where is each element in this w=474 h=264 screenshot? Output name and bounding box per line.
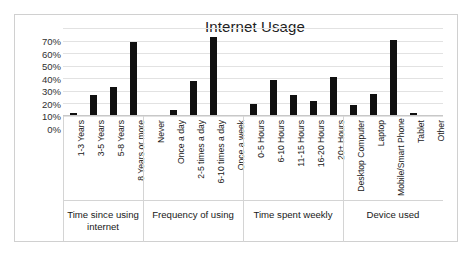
y-axis-tick-label: 20%: [23, 99, 61, 108]
x-axis-category-label: 0-5 Hours: [257, 120, 266, 196]
bars-layer: [63, 28, 443, 116]
x-axis-category-label: 5-8 Years: [117, 120, 126, 196]
y-axis-tick-label: 30%: [23, 87, 61, 96]
bar[interactable]: [410, 113, 417, 116]
bar[interactable]: [110, 87, 117, 115]
x-axis-category-label: Desktop Computer: [357, 120, 366, 196]
y-axis-tick-label: 50%: [23, 62, 61, 71]
y-axis-tick-label: 70%: [23, 37, 61, 46]
bar[interactable]: [350, 105, 357, 115]
y-axis: 70%60%50%40%30%20%10%0%: [23, 28, 61, 116]
bar[interactable]: [190, 81, 197, 115]
x-axis-category-label: Laptop: [377, 120, 386, 196]
category-labels: 1-3 Years3-5 Years5-8 Years8 Years or mo…: [63, 116, 443, 200]
bar[interactable]: [330, 77, 337, 115]
bar[interactable]: [130, 42, 137, 115]
x-axis-category-label: 1-3 Years: [77, 120, 86, 196]
bar[interactable]: [290, 95, 297, 115]
x-axis-category-label: Tablet: [417, 120, 426, 196]
group-label: Device used: [343, 209, 443, 221]
y-axis-tick-label: 40%: [23, 74, 61, 83]
chart-container: Internet Usage 70%60%50%40%30%20%10%0% 1…: [14, 14, 458, 242]
bar[interactable]: [310, 101, 317, 115]
bar[interactable]: [270, 80, 277, 115]
x-axis-category-label: Other: [437, 120, 446, 196]
x-axis-category-label: 6-10 Hours: [277, 120, 286, 196]
x-axis-category-label: 11-15 Hours: [297, 120, 306, 196]
bar[interactable]: [370, 94, 377, 115]
x-axis-category-label: 3-5 Years: [97, 120, 106, 196]
group-separator: [343, 201, 344, 242]
y-axis-tick-label: 60%: [23, 49, 61, 58]
group-separator: [243, 116, 244, 200]
group-separator: [143, 116, 144, 200]
bar[interactable]: [250, 104, 257, 115]
plot-area: [63, 28, 443, 116]
group-separator: [143, 201, 144, 242]
x-axis-category-label: Mobile/Smart Phone: [397, 120, 406, 196]
y-axis-tick-label: 10%: [23, 112, 61, 121]
y-axis-tick-label: 0%: [23, 125, 61, 134]
x-axis-category-label: 16-20 Hours: [317, 120, 326, 196]
bar[interactable]: [170, 110, 177, 115]
group-labels: Time since using internetFrequency of us…: [63, 200, 443, 242]
group-label: Time since using internet: [63, 209, 143, 233]
group-separator: [243, 201, 244, 242]
x-axis-category-label: 8 Years or more: [137, 120, 146, 196]
group-label: Frequency of using: [143, 209, 243, 221]
x-axis-category-label: 20+ Hours: [337, 120, 346, 196]
bar[interactable]: [390, 40, 397, 115]
bar[interactable]: [210, 37, 217, 115]
x-axis-category-label: 2-5 times a day: [197, 120, 206, 196]
group-label: Time spent weekly: [243, 209, 343, 221]
x-axis-category-label: Never: [157, 120, 166, 196]
bar[interactable]: [90, 95, 97, 115]
bar[interactable]: [70, 113, 77, 115]
x-axis-category-label: 6-10 times a day: [217, 120, 226, 196]
x-axis-category-label: Once a week: [237, 120, 246, 196]
group-separator: [343, 116, 344, 200]
x-axis-category-label: Once a day: [177, 120, 186, 196]
